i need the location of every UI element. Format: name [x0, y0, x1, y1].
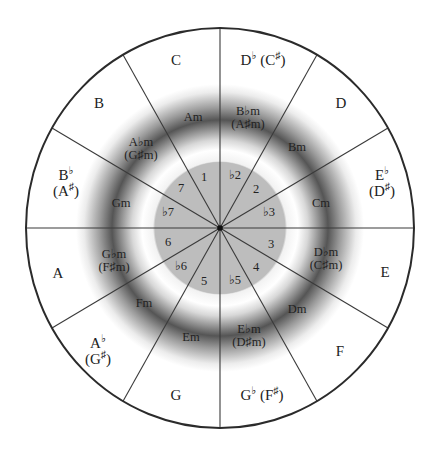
degree-7: 7 — [178, 182, 184, 195]
minor-key-ebm: E♭m(D♯m) — [232, 323, 265, 349]
degree-2: 2 — [253, 183, 259, 196]
major-key-a: A — [53, 266, 64, 282]
degree-flat-6: ♭6 — [175, 260, 187, 273]
major-key-b: B — [94, 96, 104, 112]
minor-key-abm: A♭m(G♯m) — [124, 136, 157, 162]
minor-key-em: Em — [182, 331, 199, 344]
major-key-c: C — [171, 53, 181, 69]
center-dot — [217, 225, 223, 231]
circle-graphic — [0, 0, 434, 454]
degree-6: 6 — [165, 236, 171, 249]
degree-flat-7: ♭7 — [162, 206, 174, 219]
major-key-d: D — [336, 96, 347, 112]
minor-key-gm: Gm — [112, 197, 131, 210]
degree-flat-2: ♭2 — [229, 169, 241, 182]
major-key-g: G — [171, 388, 182, 404]
major-key-bb: B♭(A♯) — [53, 168, 79, 200]
minor-key-dbm: D♭m(C♯m) — [310, 246, 343, 272]
major-key-e: E — [380, 265, 389, 281]
degree-5: 5 — [201, 275, 207, 288]
minor-key-dm: Dm — [288, 303, 307, 316]
minor-key-fm: Fm — [136, 297, 153, 310]
degree-4: 4 — [253, 261, 259, 274]
degree-flat-3: ♭3 — [263, 206, 275, 219]
degree-flat-5: ♭5 — [229, 274, 241, 287]
major-key-eb: E♭(D♯) — [369, 168, 395, 200]
circle-of-fifths-diagram: C D♭ (C♯) D E♭(D♯) E F G♭ (F♯) G A♭(G♯) … — [0, 0, 434, 454]
major-key-f: F — [336, 344, 344, 360]
major-key-ab: A♭(G♯) — [85, 336, 111, 368]
minor-key-am: Am — [184, 111, 203, 124]
minor-key-cm: Cm — [312, 197, 330, 210]
minor-key-gbm: G♭m(F♯m) — [98, 248, 129, 274]
degree-1: 1 — [201, 171, 207, 184]
major-key-gb: G♭ (F♯) — [240, 388, 283, 404]
minor-key-bm: Bm — [288, 141, 306, 154]
major-key-db: D♭ (C♯) — [241, 53, 286, 69]
minor-key-bbm: B♭m(A♯m) — [231, 105, 264, 131]
degree-3: 3 — [268, 238, 274, 251]
